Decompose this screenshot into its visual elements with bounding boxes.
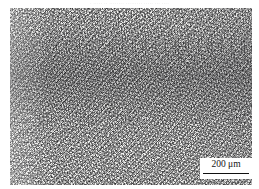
- scale-bar-label: 200 μm: [200, 158, 252, 170]
- bottom-note-text: ·· ····· ······ ··: [196, 179, 256, 186]
- scale-bar-line: [203, 173, 249, 174]
- top-caption-text: · ····· ·· ········ ········· ····· ··· …: [0, 0, 259, 7]
- scale-bar: 200 μm: [200, 158, 252, 179]
- figure-page: · ····· ·· ········ ········· ····· ··· …: [0, 0, 259, 189]
